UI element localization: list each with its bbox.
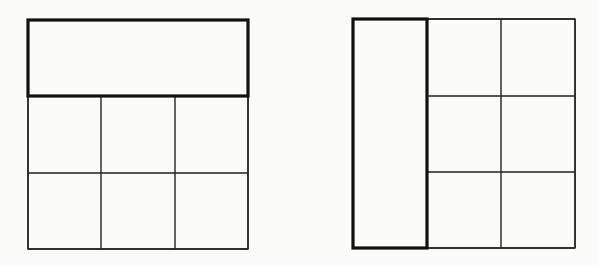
merged-cell-bold-rect <box>353 19 427 248</box>
left-figure <box>28 20 248 249</box>
right-figure <box>353 19 575 248</box>
diagram-canvas <box>0 0 598 265</box>
merged-cell-bold-rect <box>28 20 248 96</box>
figure-outline <box>28 20 248 249</box>
figure-outline <box>353 19 575 248</box>
